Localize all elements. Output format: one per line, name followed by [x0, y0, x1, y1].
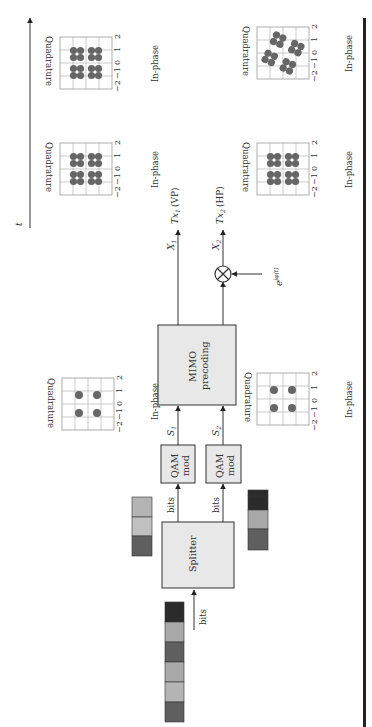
splitter-label: Splitter	[187, 535, 198, 572]
svg-text:−2: −2	[310, 186, 319, 198]
tx2-t1-xlabel: In-phase	[344, 151, 354, 188]
svg-text:−1: −1	[310, 406, 319, 418]
constellation-tx2-t1	[257, 143, 309, 195]
svg-text:2: 2	[113, 140, 122, 145]
time-axis: t	[14, 18, 30, 228]
svg-text:1: 1	[310, 153, 319, 158]
s1-ylabel: Quadrature	[46, 378, 56, 428]
s2-ylabel: Quadrature	[243, 372, 253, 422]
svg-text:−1: −1	[310, 57, 319, 69]
mimo-label-line1: MIMO	[187, 351, 198, 382]
constellation-s2	[257, 373, 309, 425]
svg-text:0: 0	[310, 50, 319, 55]
right-border-bar	[363, 18, 366, 727]
svg-text:−2: −2	[310, 70, 319, 82]
svg-text:0: 0	[115, 401, 124, 406]
x1-label: X1	[166, 240, 177, 251]
s1-xlabel: In-phase	[150, 383, 160, 420]
tx2-t2-xlabel: In-phase	[344, 35, 354, 72]
time-axis-label: t	[14, 222, 24, 226]
svg-text:0: 0	[113, 60, 122, 65]
branch1-bit-stack	[132, 497, 152, 556]
constellation-tx1-t1	[60, 143, 112, 195]
tx2-t2-ylabel: Quadrature	[241, 26, 251, 76]
input-bits-label: bits	[198, 609, 208, 625]
mimo-precoding-block: MIMO precoding	[158, 325, 236, 405]
svg-text:1: 1	[113, 47, 122, 52]
svg-text:2: 2	[310, 371, 319, 376]
s1-label: S1	[166, 426, 177, 436]
mimo-precoding-diagram: t bits Splitter bits bits QAM mod	[0, 0, 372, 727]
svg-text:−2: −2	[115, 421, 124, 433]
svg-text:1: 1	[115, 388, 124, 393]
svg-text:−1: −1	[113, 173, 122, 185]
svg-text:−1: −1	[115, 408, 124, 420]
svg-text:0: 0	[310, 166, 319, 171]
x2-label: X2	[211, 240, 222, 251]
s2-label: S2	[211, 426, 222, 436]
tx1-t2-ylabel: Quadrature	[44, 36, 54, 86]
constellation-s1	[62, 378, 114, 430]
qam2-label-line2: mod	[225, 455, 236, 476]
svg-text:1: 1	[310, 385, 319, 390]
tx1-t1-ylabel: Quadrature	[44, 142, 54, 192]
svg-text:2: 2	[115, 375, 124, 380]
svg-text:−1: −1	[310, 173, 319, 185]
tx1-label: Tx1(VP)	[170, 188, 181, 225]
mixer-icon	[215, 266, 231, 282]
splitter-block: Splitter	[162, 522, 234, 588]
svg-text:1: 1	[113, 153, 122, 158]
qam1-label-line1: QAM	[169, 453, 180, 478]
svg-text:2: 2	[113, 34, 122, 39]
tx1-t2-xlabel: In-phase	[150, 45, 160, 82]
branch2-bits-label: bits	[211, 497, 221, 513]
svg-text:−2: −2	[310, 419, 319, 431]
qam-mod-block-1: QAM mod	[161, 445, 195, 483]
svg-text:0: 0	[113, 166, 122, 171]
tx2-label: Tx2(HP)	[215, 186, 226, 224]
qam1-label-line2: mod	[180, 455, 191, 476]
input-bit-stack	[165, 602, 184, 722]
svg-text:−2: −2	[113, 80, 122, 92]
svg-text:−2: −2	[113, 186, 122, 198]
qam-mod-block-2: QAM mod	[206, 445, 241, 483]
s2-xlabel: In-phase	[344, 381, 354, 418]
tx1-t1-xlabel: In-phase	[150, 151, 160, 188]
svg-text:2: 2	[310, 24, 319, 29]
svg-text:2: 2	[310, 140, 319, 145]
branch2-bit-stack	[248, 490, 268, 550]
constellation-tx2-t2	[257, 27, 309, 79]
phase-label: ejφ(t)	[272, 267, 284, 286]
svg-text:−1: −1	[113, 67, 122, 79]
branch1-bits-label: bits	[166, 497, 176, 513]
constellation-tx1-t2	[60, 37, 112, 89]
qam2-label-line1: QAM	[214, 453, 225, 478]
mimo-label-line2: precoding	[199, 341, 210, 390]
svg-text:1: 1	[310, 37, 319, 42]
tx2-t1-ylabel: Quadrature	[241, 142, 251, 192]
svg-text:0: 0	[310, 398, 319, 403]
